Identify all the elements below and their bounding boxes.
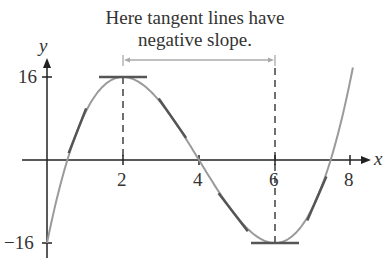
y-tick-16: 16 <box>18 66 37 88</box>
tangent-line <box>69 108 86 153</box>
axes <box>22 58 371 258</box>
chart-plot <box>0 0 390 265</box>
function-curve <box>47 68 353 244</box>
tangent-line <box>159 98 186 137</box>
tangent-line <box>307 176 326 220</box>
x-tick-8: 8 <box>344 169 354 191</box>
x-tick-6: 6 <box>269 169 279 191</box>
x-tick-2: 2 <box>117 169 127 191</box>
y-tick-neg16: −16 <box>4 232 34 254</box>
tangent-line <box>219 193 248 231</box>
x-tick-4: 4 <box>193 169 203 191</box>
x-axis-label: x <box>374 148 382 170</box>
y-axis-label: y <box>39 35 47 57</box>
interval-bracket <box>123 55 275 66</box>
